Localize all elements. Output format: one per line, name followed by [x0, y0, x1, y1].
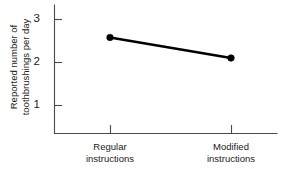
y-tick-label-2: 2 [24, 56, 40, 68]
chart-container: Reported number of toothbrushings per da… [0, 0, 284, 169]
series-line-segment [110, 38, 231, 59]
x-category-label-modified-line2: instructions [207, 153, 255, 165]
axes-group [55, 5, 278, 134]
y-axis-label-line1: Reported number of [8, 24, 19, 109]
y-tick-label-3: 3 [24, 13, 40, 25]
x-category-label-modified-line1: Modified [213, 141, 249, 152]
data-series-line [107, 34, 235, 61]
data-point-modified-instructions [228, 55, 235, 62]
x-category-label-modified-instructions: Modified instructions [207, 141, 255, 165]
x-category-label-regular-line1: Regular [93, 141, 126, 152]
x-category-label-regular-instructions: Regular instructions [86, 141, 134, 165]
y-axis-ticks [55, 20, 63, 106]
y-tick-label-1: 1 [24, 99, 40, 111]
data-point-regular-instructions [107, 34, 114, 41]
x-axis-ticks [111, 125, 232, 134]
x-category-label-regular-line2: instructions [86, 153, 134, 165]
